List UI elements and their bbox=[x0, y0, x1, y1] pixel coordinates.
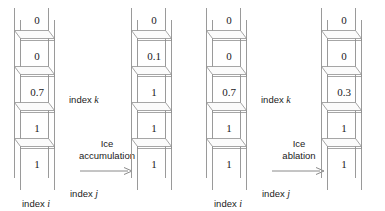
column-1-cell-value-5: 1 bbox=[14, 158, 60, 170]
column-4: 0 0 0.3 1 1 bbox=[321, 8, 367, 190]
index-i-word-1: index bbox=[22, 198, 45, 209]
column-4-cell-value-2: 0 bbox=[321, 50, 367, 62]
column-4-cell-value-4: 1 bbox=[321, 122, 367, 134]
index-j-symbol-2: j bbox=[287, 188, 290, 199]
column-3-cell-value-4: 1 bbox=[206, 122, 252, 134]
index-j-word-1: index bbox=[70, 188, 93, 199]
index-j-label-2: index j bbox=[262, 188, 290, 199]
index-i-symbol-1: i bbox=[47, 198, 50, 209]
index-j-word-2: index bbox=[262, 188, 285, 199]
index-j-label-1: index j bbox=[70, 188, 98, 199]
column-1-cell-value-2: 0 bbox=[14, 50, 60, 62]
column-1-cell-value-4: 1 bbox=[14, 122, 60, 134]
index-k-word-2: index bbox=[261, 94, 284, 105]
index-k-symbol-2: k bbox=[286, 94, 290, 105]
index-k-word-1: index bbox=[69, 94, 92, 105]
column-2-cell-value-3: 1 bbox=[131, 86, 177, 98]
index-i-label-1: index i bbox=[22, 198, 50, 209]
column-1: 0 0 0.7 1 1 bbox=[14, 8, 60, 190]
index-i-symbol-2: i bbox=[239, 198, 242, 209]
index-j-symbol-1: j bbox=[95, 188, 98, 199]
column-4-cell-value-3: 0.3 bbox=[321, 86, 367, 98]
ice-column-diagram: 0 0 0.7 1 1 index k index j index i Ice … bbox=[0, 0, 385, 211]
column-2-cell-value-5: 1 bbox=[131, 158, 177, 170]
column-3-cell-value-5: 1 bbox=[206, 158, 252, 170]
arrow-ablation-icon bbox=[272, 162, 326, 172]
column-2: 0 0.1 1 1 1 bbox=[131, 8, 177, 190]
column-2-cell-value-2: 0.1 bbox=[131, 50, 177, 62]
arrow-accumulation-icon bbox=[80, 162, 134, 172]
column-4-cell-value-1: 0 bbox=[321, 14, 367, 26]
column-2-cell-value-4: 1 bbox=[131, 122, 177, 134]
index-k-symbol-1: k bbox=[94, 94, 98, 105]
column-3-cell-value-2: 0 bbox=[206, 50, 252, 62]
column-1-cell-value-3: 0.7 bbox=[14, 86, 60, 98]
column-3: 0 0 0.7 1 1 bbox=[206, 8, 252, 190]
index-k-label-2: index k bbox=[261, 94, 291, 105]
index-k-label-1: index k bbox=[69, 94, 99, 105]
column-4-cell-value-5: 1 bbox=[321, 158, 367, 170]
column-3-cell-value-3: 0.7 bbox=[206, 86, 252, 98]
column-1-cell-value-1: 0 bbox=[14, 14, 60, 26]
index-i-word-2: index bbox=[214, 198, 237, 209]
column-3-cell-value-1: 0 bbox=[206, 14, 252, 26]
index-i-label-2: index i bbox=[214, 198, 242, 209]
column-2-cell-value-1: 0 bbox=[131, 14, 177, 26]
